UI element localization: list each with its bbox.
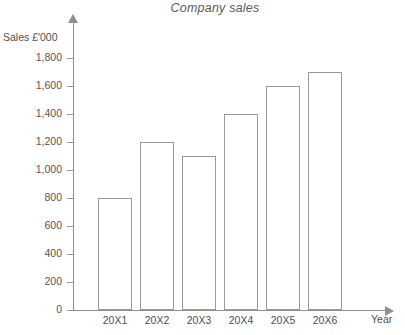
y-axis-arrow-icon (68, 14, 78, 23)
y-axis-line (73, 22, 74, 311)
y-axis-tick-label: 200 (44, 276, 62, 287)
y-axis-title: Sales £'000 (3, 31, 58, 43)
y-axis-tick-label: 0 (56, 304, 62, 315)
y-axis-tick-label: 400 (44, 248, 62, 259)
y-axis-tick (67, 226, 73, 227)
y-axis-tick (67, 310, 73, 311)
bar-chart: Company sales Sales £'000 Year 020040060… (0, 0, 405, 335)
y-axis-tick (67, 254, 73, 255)
y-axis-tick-label: 1,600 (36, 80, 62, 91)
y-axis-tick-label: 800 (44, 192, 62, 203)
bar-20X6 (308, 72, 342, 310)
y-axis-tick (67, 58, 73, 59)
y-axis-tick-label: 1,400 (36, 108, 62, 119)
y-axis-tick (67, 142, 73, 143)
bar-20X5 (266, 86, 300, 310)
y-axis-tick-label: 1,000 (36, 164, 62, 175)
y-axis-tick (67, 86, 73, 87)
y-axis-tick (67, 282, 73, 283)
bar-20X4 (224, 114, 258, 310)
bar-20X2 (140, 142, 174, 310)
y-axis-tick (67, 170, 73, 171)
y-axis-tick-label: 1,800 (36, 52, 62, 63)
chart-title: Company sales (130, 1, 300, 15)
bar-20X3 (182, 156, 216, 310)
y-axis-tick (67, 114, 73, 115)
x-axis-line (73, 310, 386, 311)
x-axis-label-20X6: 20X6 (300, 314, 350, 326)
y-axis-tick-label: 600 (44, 220, 62, 231)
y-axis-tick-label: 1,200 (36, 136, 62, 147)
y-axis-tick (67, 198, 73, 199)
bar-20X1 (98, 198, 132, 310)
x-axis-arrow-icon (385, 306, 394, 316)
